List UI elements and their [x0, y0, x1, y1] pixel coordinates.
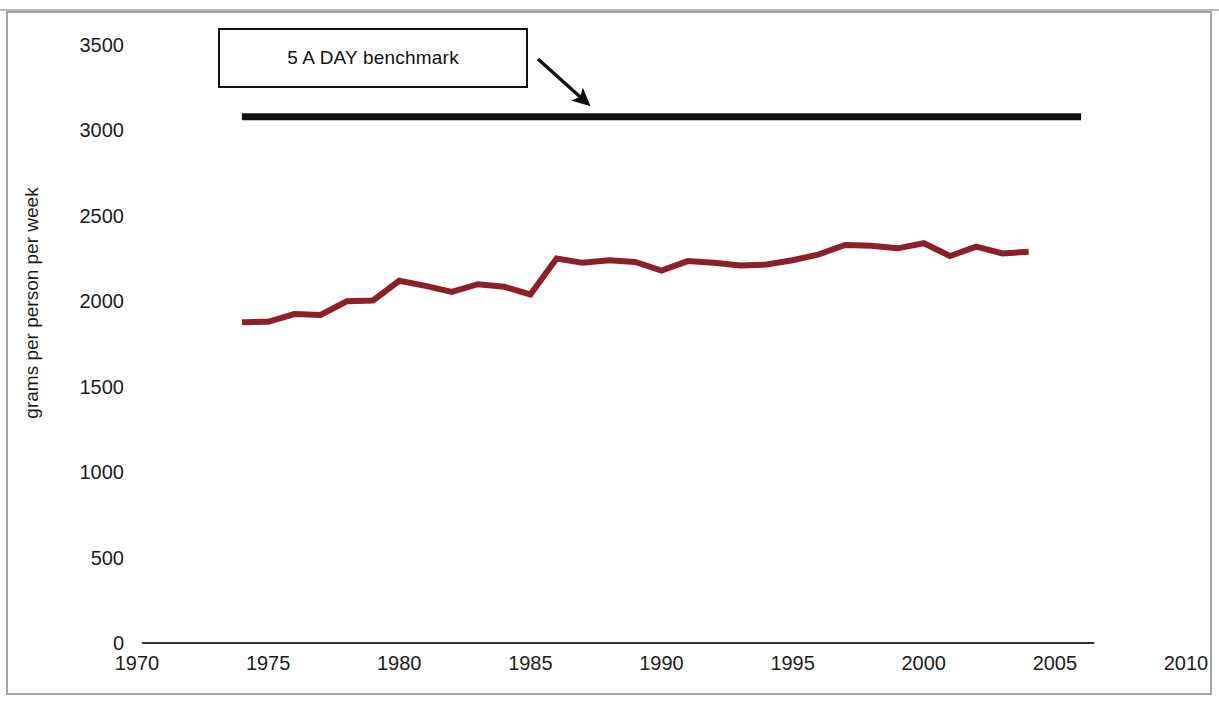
callout-arrow [538, 59, 588, 104]
plot-area: grams per person per week 05001000150020… [0, 0, 1219, 710]
benchmark-callout-box: 5 A DAY benchmark [218, 28, 528, 88]
annotation-layer [0, 0, 1219, 710]
benchmark-callout-label: 5 A DAY benchmark [287, 47, 459, 69]
chart-figure: grams per person per week 05001000150020… [0, 0, 1219, 710]
